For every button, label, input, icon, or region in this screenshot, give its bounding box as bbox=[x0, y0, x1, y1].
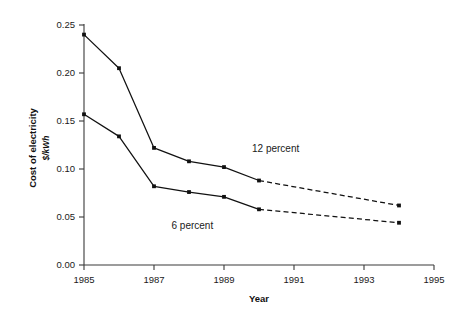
x-tick-label: 1995 bbox=[423, 274, 444, 285]
data-point-marker bbox=[152, 184, 156, 188]
x-tick-label: 1989 bbox=[213, 274, 234, 285]
data-point-marker bbox=[117, 66, 121, 70]
data-point-marker bbox=[222, 195, 226, 199]
x-axis-title: Year bbox=[249, 293, 269, 304]
data-point-marker bbox=[397, 204, 401, 208]
y-tick-label: 0.25 bbox=[57, 19, 76, 30]
data-point-marker bbox=[152, 146, 156, 150]
y-tick-label: 0.15 bbox=[57, 115, 76, 126]
y-axis-tick-labels: 0.000.050.100.150.200.25 bbox=[57, 19, 76, 270]
data-point-marker bbox=[397, 221, 401, 225]
series-line-solid-0 bbox=[84, 35, 259, 181]
y-tick-label: 0.10 bbox=[57, 163, 76, 174]
data-point-markers bbox=[82, 33, 401, 225]
series-annotations: 12 percent6 percent bbox=[172, 143, 300, 231]
data-point-marker bbox=[82, 112, 86, 116]
data-point-marker bbox=[222, 165, 226, 169]
data-point-marker bbox=[187, 190, 191, 194]
line-chart-canvas: 0.000.050.100.150.200.25 198519871989199… bbox=[0, 0, 457, 314]
x-tick-label: 1985 bbox=[73, 274, 94, 285]
series-label-6-percent: 6 percent bbox=[172, 220, 214, 231]
y-tick-label: 0.00 bbox=[57, 259, 76, 270]
x-tick-label: 1987 bbox=[143, 274, 164, 285]
series-line-solid-1 bbox=[84, 114, 259, 209]
series-line-dashed-1 bbox=[259, 209, 399, 222]
x-tick-label: 1991 bbox=[283, 274, 304, 285]
y-axis-units-label: $/kWh bbox=[41, 135, 51, 161]
series-line-dashed-0 bbox=[259, 181, 399, 206]
y-axis-title: Cost of electricity bbox=[27, 107, 38, 187]
series-label-12-percent: 12 percent bbox=[252, 143, 299, 154]
x-axis-ticks bbox=[84, 265, 434, 270]
y-axis-ticks bbox=[79, 25, 84, 265]
data-point-marker bbox=[187, 159, 191, 163]
data-series-lines bbox=[84, 35, 399, 223]
x-tick-label: 1993 bbox=[353, 274, 374, 285]
y-tick-label: 0.20 bbox=[57, 67, 76, 78]
data-point-marker bbox=[82, 33, 86, 37]
data-point-marker bbox=[257, 179, 261, 183]
data-point-marker bbox=[257, 207, 261, 211]
chart-figure: 0.000.050.100.150.200.25 198519871989199… bbox=[0, 0, 457, 314]
data-point-marker bbox=[117, 134, 121, 138]
x-axis-tick-labels: 198519871989199119931995 bbox=[73, 274, 444, 285]
y-tick-label: 0.05 bbox=[57, 211, 76, 222]
